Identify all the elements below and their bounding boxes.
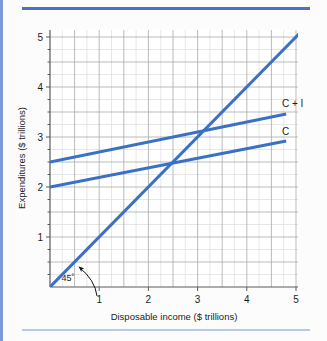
x-axis-title: Disposable income ($ trillions)	[111, 311, 238, 322]
series-label-c: C	[282, 126, 289, 137]
x-tick-label: 2	[146, 294, 152, 305]
y-tick-label: 1	[37, 232, 43, 243]
y-tick-label: 2	[37, 182, 43, 193]
x-tick-label: 5	[293, 294, 299, 305]
x-tick-label: 1	[96, 294, 102, 305]
y-axis-title: Expenditures ($ trillions)	[16, 107, 27, 209]
y-tick-label: 3	[37, 132, 43, 143]
y-tick-label: 4	[37, 82, 43, 93]
y-tick-label: 5	[37, 32, 43, 43]
series-label-c-plus-i: C + I	[282, 98, 303, 109]
x-tick-label: 4	[244, 294, 250, 305]
figure-container: C + I C 45˚ 12345 12345 Disposable incom…	[0, 0, 327, 341]
line-chart: C + I C 45˚ 12345 12345 Disposable incom…	[0, 0, 327, 341]
y-tick-labels: 12345	[37, 32, 43, 243]
x-tick-labels: 12345	[96, 294, 299, 305]
angle-annotation-label: 45˚	[61, 273, 74, 283]
x-tick-label: 3	[195, 294, 201, 305]
